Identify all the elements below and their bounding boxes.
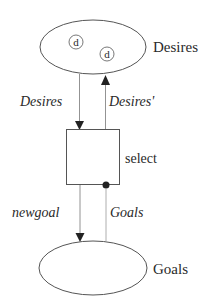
arrowhead-down-icon [75, 121, 84, 130]
desire-item-2-label: d [104, 48, 110, 60]
edge-desires-in: Desires [19, 74, 84, 130]
edge-desires-out-label: Desires' [108, 94, 155, 109]
arrowhead-down-icon [76, 233, 85, 242]
desires-ellipse [40, 20, 146, 74]
desire-item-1-label: d [73, 36, 79, 48]
desire-item-2: d [100, 47, 114, 61]
desire-item-1: d [69, 35, 83, 49]
select-process: select [67, 130, 157, 189]
goals-ellipse [39, 241, 147, 295]
goals-store-label: Goals [153, 261, 188, 277]
desires-goals-diagram: d d Desires Desires Desires' select newg… [0, 0, 210, 303]
select-box [67, 130, 120, 185]
goals-store: Goals [39, 241, 188, 295]
edge-desires-out: Desires' [101, 75, 155, 129]
edge-goals-read-label: Goals [110, 205, 144, 220]
arrowhead-up-icon [101, 75, 110, 85]
edge-newgoal: newgoal [12, 185, 85, 242]
edge-newgoal-label: newgoal [12, 205, 60, 220]
edge-goals-read: Goals [106, 188, 144, 241]
read-connector-dot-icon [103, 182, 110, 189]
desires-store: d d Desires [40, 20, 198, 74]
select-process-label: select [125, 151, 157, 166]
edge-desires-in-label: Desires [19, 94, 63, 109]
desires-store-label: Desires [153, 39, 198, 55]
